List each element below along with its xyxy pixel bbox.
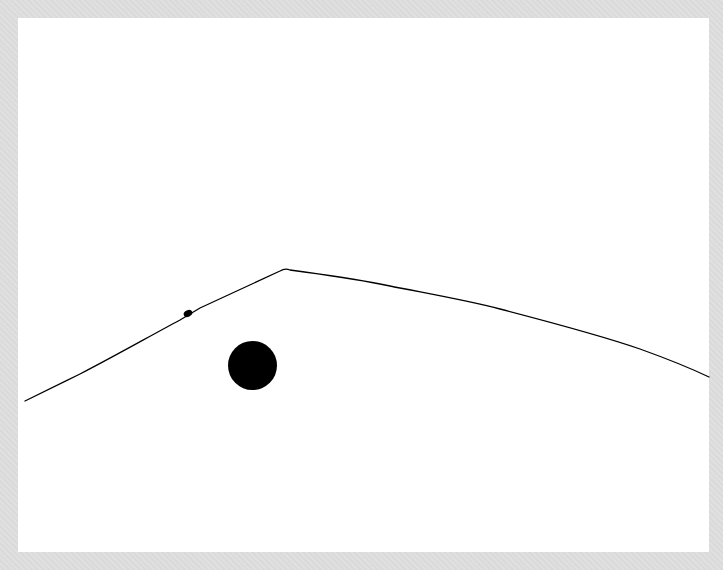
ridge-line bbox=[25, 269, 709, 401]
large-black-circle bbox=[228, 341, 277, 390]
ink-drawing bbox=[0, 0, 723, 570]
